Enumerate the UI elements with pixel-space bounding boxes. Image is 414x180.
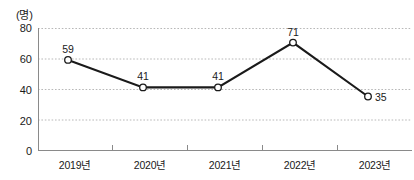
x-axis-tick-label-2020: 2020년 bbox=[134, 160, 166, 171]
line-chart: (명) 80 60 40 20 0 bbox=[0, 0, 414, 180]
x-axis-ticks bbox=[113, 145, 338, 151]
data-point-2022 bbox=[290, 39, 297, 46]
data-point-2019 bbox=[65, 57, 72, 64]
gridlines bbox=[38, 29, 412, 121]
x-axis-tick-label-2021: 2021년 bbox=[209, 160, 241, 171]
data-label-2019: 59 bbox=[62, 44, 74, 55]
data-point-2021 bbox=[215, 84, 222, 91]
data-label-2022: 71 bbox=[287, 27, 299, 38]
data-label-2020: 41 bbox=[137, 71, 149, 82]
data-label-2021: 41 bbox=[212, 71, 224, 82]
x-axis-tick-label-2023: 2023년 bbox=[359, 160, 391, 171]
data-label-2023: 35 bbox=[375, 92, 387, 103]
plot-area bbox=[0, 0, 414, 180]
x-axis-tick-label-2022: 2022년 bbox=[284, 160, 316, 171]
x-axis-tick-label-2019: 2019년 bbox=[59, 160, 91, 171]
data-point-2023 bbox=[365, 93, 372, 100]
data-point-2020 bbox=[140, 84, 147, 91]
